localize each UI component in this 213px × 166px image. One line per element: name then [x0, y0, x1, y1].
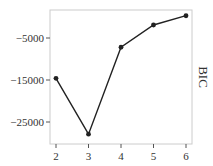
- bic-series-line: [56, 16, 186, 135]
- y-tick-label: −25000: [10, 116, 44, 128]
- data-point-marker: [119, 45, 124, 50]
- x-tick-label: 2: [53, 150, 59, 162]
- chart-canvas: −5000−15000−25000 23456 BIC: [0, 0, 213, 166]
- plot-frame: [50, 10, 192, 144]
- bic-line-chart: −5000−15000−25000 23456 BIC: [0, 0, 213, 166]
- data-point-marker: [86, 132, 91, 137]
- data-point-marker: [151, 23, 156, 28]
- y-tick-label: −15000: [10, 74, 44, 86]
- y-axis: −5000−15000−25000: [10, 32, 50, 128]
- x-tick-label: 5: [151, 150, 157, 162]
- y-axis-label: BIC: [196, 66, 211, 88]
- data-point-marker: [54, 76, 59, 81]
- bic-series-markers: [54, 13, 189, 136]
- y-tick-label: −5000: [16, 32, 45, 44]
- x-tick-label: 3: [86, 150, 92, 162]
- x-tick-label: 4: [118, 150, 124, 162]
- data-point-marker: [184, 13, 189, 18]
- x-axis: 23456: [53, 144, 189, 162]
- x-tick-label: 6: [183, 150, 189, 162]
